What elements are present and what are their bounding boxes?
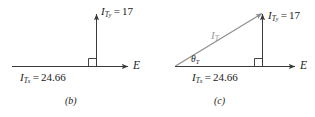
panel-c-vertical-current-label: ITy = 17: [268, 10, 300, 23]
phasor-figure: ITy = 17 ITx = 24.66 E (b) ITy = 17 ITx …: [0, 0, 315, 117]
panel-c-caption: (c): [214, 96, 225, 106]
panel-b-axis-label: E: [133, 60, 140, 72]
panel-c-right-angle-icon: [255, 59, 263, 67]
panel-b-vertical-current-label: ITy = 17: [101, 6, 133, 19]
panel-c-angle-label: θT: [191, 55, 199, 65]
panel-b-caption: (b): [65, 96, 77, 106]
panel-c-horizontal-current-label: ITx = 24.66: [192, 72, 238, 85]
panel-c-axis-label: E: [300, 60, 307, 72]
panel-b-horizontal-current-label: ITx = 24.66: [20, 72, 66, 85]
panel-b-right-angle-icon: [89, 59, 97, 67]
panel-b-graphics: [12, 14, 128, 67]
panel-c-resultant-label: IT: [211, 30, 219, 43]
